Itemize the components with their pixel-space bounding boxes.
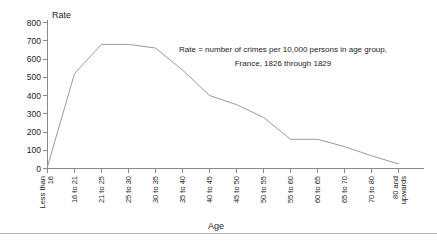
x-tick-label: 30 to 35 [151, 176, 160, 203]
y-tick-label: 300 [27, 109, 41, 119]
y-tick-labels: 0 100 200 300 400 500 600 700 800 [27, 18, 41, 174]
y-tick-label: 800 [27, 18, 41, 28]
y-tick-label: 500 [27, 72, 41, 82]
annotation-line-2: France, 1826 through 1829 [235, 59, 332, 68]
x-tick-label: 45 to 50 [232, 176, 241, 203]
x-tick-label: 80 andupwards [391, 176, 408, 205]
y-tick-label: 100 [27, 145, 41, 155]
x-tick-label: 25 to 30 [124, 176, 133, 203]
x-tick-label: 50 to 55 [259, 176, 268, 203]
y-tick-label: 0 [36, 164, 41, 174]
x-tick-label: 55 to 60 [286, 176, 295, 203]
x-tick-label: 16 to 21 [70, 176, 79, 203]
data-series-line [48, 44, 399, 166]
chart-figure: 0 100 200 300 400 500 600 700 800 Rate [0, 0, 437, 244]
y-tick-label: 700 [27, 36, 41, 46]
y-tick-label: 600 [27, 54, 41, 64]
y-tick-marks [43, 23, 48, 169]
annotation-line-1: Rate = number of crimes per 10,000 perso… [179, 45, 387, 54]
x-tick-label: 70 to 80 [367, 176, 376, 203]
annotation-block: Rate = number of crimes per 10,000 perso… [179, 45, 387, 68]
x-tick-label: 65 to 70 [340, 176, 349, 203]
x-tick-labels: Less than16 16 to 21 21 to 25 25 to 30 3… [38, 176, 408, 209]
line-chart-canvas: 0 100 200 300 400 500 600 700 800 Rate [0, 0, 437, 244]
x-tick-label: 60 to 65 [313, 176, 322, 203]
x-tick-label: 21 to 25 [97, 176, 106, 203]
y-tick-label: 200 [27, 127, 41, 137]
x-tick-label: 40 to 45 [205, 176, 214, 203]
x-axis-title: Age [208, 221, 224, 231]
y-axis-title: Rate [52, 10, 71, 20]
x-tick-marks [48, 169, 399, 174]
y-tick-label: 400 [27, 91, 41, 101]
x-tick-label: 35 to 40 [178, 176, 187, 203]
x-tick-label: Less than16 [38, 176, 55, 209]
